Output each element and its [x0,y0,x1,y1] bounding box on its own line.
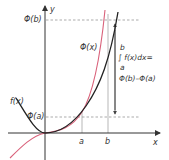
phi-curve [10,10,105,158]
phi-a-label: Φ(a) [27,112,44,121]
phi-curve-label: Φ(x) [80,43,97,52]
axes [8,6,160,160]
tick-a-label: a [79,137,84,146]
integral-formula: b ∫ f(x)dx= a Φ(b)–Φ(a) [118,43,156,83]
formula-integral: ∫ f(x)dx= [118,53,153,62]
x-axis-label: x [152,138,158,147]
formula-result: Φ(b)–Φ(a) [119,74,156,83]
tick-b-label: b [105,137,110,146]
phi-b-label: Φ(b) [24,15,42,24]
y-axis-label: y [49,5,55,14]
formula-upper-bound: b [120,43,125,52]
f-curve-label: f(x) [10,97,24,106]
integral-diagram: y x Φ(b) Φ(a) f(x) Φ(x) a b b ∫ f(x)dx= … [0,0,169,160]
formula-lower-bound: a [120,63,125,72]
